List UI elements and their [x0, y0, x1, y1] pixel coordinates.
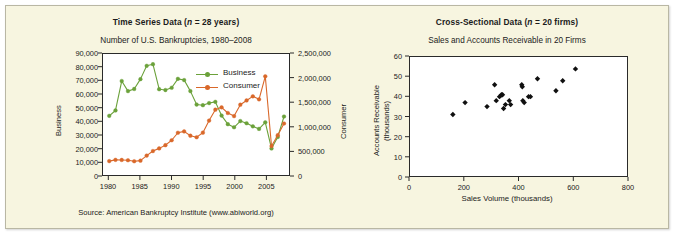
data-point-consumer-1997 — [214, 108, 218, 112]
data-point-business-1992 — [182, 78, 186, 82]
right-chart-title: Cross-Sectional Data (n = 20 firms) — [346, 17, 668, 27]
data-point-consumer-1996 — [207, 119, 211, 123]
data-point-business-1993 — [189, 89, 193, 93]
right-xtick-600: 600 — [558, 183, 588, 192]
left-title-prefix: Time Series Data ( — [113, 17, 187, 27]
right-ytick-1000000: 1,000,000 — [298, 123, 331, 132]
data-point-business-1996 — [207, 101, 211, 105]
data-point-consumer-1983 — [126, 158, 130, 162]
data-point-consumer-1990 — [170, 138, 174, 142]
right-ytick-2000000: 2,000,000 — [298, 74, 331, 83]
right-xtick-200: 200 — [449, 183, 479, 192]
right-xtick-0: 0 — [394, 183, 424, 192]
data-point-consumer-1993 — [189, 134, 193, 138]
data-point-consumer-1987 — [151, 149, 155, 153]
left-ytick-40000: 40,000 — [60, 117, 98, 126]
data-point-consumer-1988 — [157, 147, 161, 151]
left-xtick-1980: 1980 — [91, 182, 125, 191]
legend-dot-consumer — [205, 85, 210, 90]
left-chart-subtitle: Number of U.S. Bankruptcies, 1980–2008 — [6, 36, 346, 45]
right-ytick-20: 20 — [386, 133, 402, 142]
data-point-consumer-2003 — [251, 95, 255, 99]
data-point-consumer-2000 — [232, 114, 236, 118]
left-ytick-20000: 20,000 — [60, 145, 98, 154]
left-ytick-80000: 80,000 — [60, 63, 98, 72]
data-point-business-1989 — [164, 88, 168, 92]
legend-dot-business — [205, 72, 210, 77]
time-series-chart-block: Time Series Data (n = 28 years) Number o… — [6, 6, 346, 228]
right-ytick-40: 40 — [386, 92, 402, 101]
scatter-point-3 — [492, 82, 497, 87]
data-point-consumer-1989 — [164, 143, 168, 147]
data-point-business-1994 — [195, 103, 199, 107]
data-point-consumer-1985 — [139, 159, 143, 163]
scatter-point-2 — [484, 104, 489, 109]
data-point-consumer-1994 — [195, 135, 199, 139]
data-point-consumer-1982 — [120, 158, 124, 162]
data-point-consumer-2005 — [263, 74, 267, 78]
figure-root: Time Series Data (n = 28 years) Number o… — [0, 0, 676, 236]
legend-label-consumer: Consumer — [223, 81, 260, 90]
data-point-business-1999 — [226, 122, 230, 126]
right-ytick-10: 10 — [386, 153, 402, 162]
data-point-consumer-1995 — [201, 131, 205, 135]
time-series-svg — [103, 54, 289, 175]
right-title-prefix: Cross-Sectional Data ( — [436, 17, 528, 27]
scatter-point-19 — [553, 88, 558, 93]
data-point-business-2005 — [263, 120, 267, 124]
right-title-suffix: = 20 firms) — [533, 17, 579, 27]
right-chart-subtitle: Sales and Accounts Receivable in 20 Firm… — [346, 36, 668, 45]
right-xtick-800: 800 — [613, 183, 643, 192]
left-title-suffix: = 28 years) — [192, 17, 239, 27]
right-xtick-400: 400 — [504, 183, 534, 192]
data-point-business-2002 — [245, 121, 249, 125]
figure-panel: Time Series Data (n = 28 years) Number o… — [5, 5, 669, 229]
left-ytick-10000: 10,000 — [60, 158, 98, 167]
data-point-business-1983 — [126, 89, 130, 93]
left-ytick-70000: 70,000 — [60, 76, 98, 85]
data-point-business-1988 — [157, 87, 161, 91]
right-ytick-1500000: 1,500,000 — [298, 98, 331, 107]
scatter-point-18 — [535, 76, 540, 81]
data-point-consumer-1984 — [132, 159, 136, 163]
left-ytick-50000: 50,000 — [60, 104, 98, 113]
data-point-business-1995 — [201, 103, 205, 107]
left-ytick-60000: 60,000 — [60, 90, 98, 99]
left-chart-title: Time Series Data (n = 28 years) — [6, 17, 346, 27]
right-xaxis-title: Sales Volume (thousands) — [346, 194, 668, 203]
right-ytick-0: 0 — [386, 173, 402, 182]
scatter-plot-area — [409, 56, 628, 177]
data-point-business-1997 — [214, 100, 218, 104]
left-source-note: Source: American Bankruptcy Institute (w… — [6, 208, 346, 217]
left-ytick-0: 0 — [60, 172, 98, 181]
data-point-business-1990 — [170, 86, 174, 90]
data-point-consumer-2001 — [238, 103, 242, 107]
data-point-consumer-1998 — [220, 105, 224, 109]
data-point-business-1980 — [107, 114, 111, 118]
data-point-business-2003 — [251, 124, 255, 128]
right-ytick-500000: 500,000 — [298, 147, 325, 156]
data-point-consumer-2002 — [245, 99, 249, 103]
data-point-consumer-2007 — [276, 133, 280, 137]
scatter-svg — [410, 57, 627, 176]
data-point-consumer-1991 — [176, 131, 180, 135]
data-point-business-2001 — [238, 119, 242, 123]
data-point-business-2008 — [282, 115, 286, 119]
data-point-consumer-2008 — [282, 122, 286, 126]
left-xtick-1990: 1990 — [154, 182, 188, 191]
right-ytick-60: 60 — [386, 52, 402, 61]
data-point-consumer-1980 — [107, 159, 111, 163]
data-point-consumer-1992 — [182, 130, 186, 134]
left-xtick-2000: 2000 — [218, 182, 252, 191]
scatter-point-0 — [450, 112, 455, 117]
data-point-business-1985 — [139, 77, 143, 81]
scatter-point-21 — [573, 66, 578, 71]
data-point-consumer-1986 — [145, 154, 149, 158]
right-ytick-2500000: 2,500,000 — [298, 49, 331, 58]
right-yaxis-title-line1: Accounts Receivable — [372, 85, 381, 156]
right-ytick-0: 0 — [298, 172, 302, 181]
data-point-business-2000 — [232, 125, 236, 129]
left-ytick-90000: 90,000 — [60, 49, 98, 58]
data-point-business-1981 — [114, 109, 118, 113]
data-point-business-1986 — [145, 64, 149, 68]
